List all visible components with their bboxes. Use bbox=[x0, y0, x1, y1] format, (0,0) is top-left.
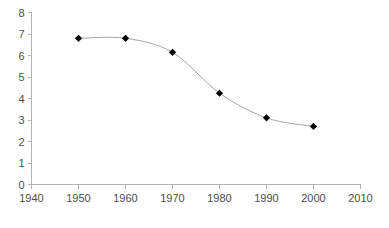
y-tick-label: 7 bbox=[18, 28, 24, 40]
y-tick-label: 6 bbox=[18, 50, 24, 62]
y-tick-label: 2 bbox=[18, 136, 24, 148]
x-tick-label: 2010 bbox=[348, 192, 372, 204]
y-tick-label: 3 bbox=[18, 114, 24, 126]
y-tick-label: 8 bbox=[18, 7, 24, 19]
x-tick-label: 1960 bbox=[113, 192, 137, 204]
x-tick-label: 2000 bbox=[301, 192, 325, 204]
y-tick-label: 5 bbox=[18, 71, 24, 83]
line-chart: 012345678 194019501960197019801990200020… bbox=[0, 0, 389, 228]
y-tick-label: 1 bbox=[18, 157, 24, 169]
x-tick-label: 1950 bbox=[66, 192, 90, 204]
x-tick-label: 1980 bbox=[207, 192, 231, 204]
x-tick-label: 1990 bbox=[254, 192, 278, 204]
x-tick-label: 1940 bbox=[19, 192, 43, 204]
plot-background bbox=[0, 0, 389, 228]
chart-canvas: 012345678 194019501960197019801990200020… bbox=[0, 0, 389, 228]
y-tick-label: 4 bbox=[18, 93, 24, 105]
x-tick-label: 1970 bbox=[160, 192, 184, 204]
y-tick-label: 0 bbox=[18, 179, 24, 191]
